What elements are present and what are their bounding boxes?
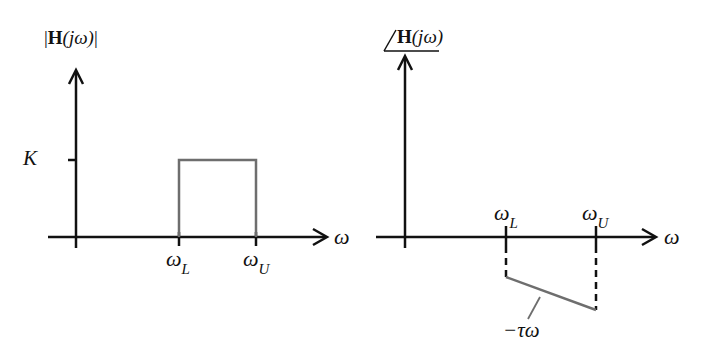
omega-L-tick-label: ωL [166,246,190,272]
H-symbol: H [48,27,63,48]
omega: ω [494,200,510,225]
arg: (jω) [63,27,94,48]
omega: ω [582,200,598,225]
omega: ω [243,246,259,271]
omega-U-tick-label: ωU [243,246,269,272]
phase-omega-U-label: ωU [582,200,608,226]
phase-curve [506,277,596,310]
abs-bar-right: | [94,27,98,48]
magnitude-ylabel: |H(jω)| [44,27,98,49]
sub-U: U [259,261,270,277]
phase-omega-L-label: ωL [494,200,518,226]
arg: (jω) [412,26,443,47]
sub-U: U [598,215,609,231]
magnitude-xlabel: ω [334,224,350,250]
H-symbol: H [397,26,412,47]
slope-leader-line [528,297,540,319]
phase-axes [376,56,656,310]
level-K-label: K [23,146,37,171]
filter-response-diagram [0,0,710,351]
sub-L: L [510,215,518,231]
slope-label: −τω [503,318,540,343]
angle-symbol [384,30,396,51]
omega: ω [166,246,182,271]
phase-ylabel: H(jω) [397,26,443,48]
sub-L: L [182,261,190,277]
magnitude-curve [179,160,256,237]
phase-xlabel: ω [664,224,680,250]
